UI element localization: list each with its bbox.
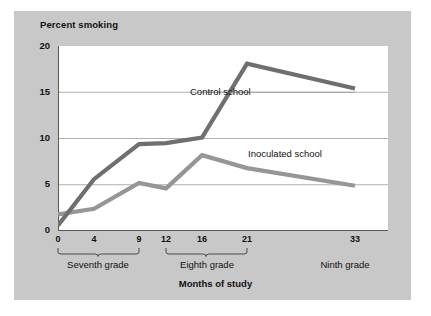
figure-container: Percent smoking 20 15 10 5 0 Control sch… <box>0 0 431 316</box>
x-tick-label-9: 9 <box>127 234 151 244</box>
x-tick-label-21: 21 <box>235 234 259 244</box>
plot-area <box>58 46 388 231</box>
group-label-eighth-grade: Eighth grade <box>157 259 257 270</box>
x-tick-label-4: 4 <box>82 234 106 244</box>
series-label-inoculated-school: Inoculated school <box>248 148 322 159</box>
x-tick-label-0: 0 <box>46 234 70 244</box>
group-label-ninth-grade: Ninth grade <box>305 259 385 270</box>
plot-svg <box>58 46 388 231</box>
y-tick-label-10: 10 <box>28 132 50 143</box>
chart-title: Percent smoking <box>40 19 118 30</box>
y-tick-label-5: 5 <box>28 178 50 189</box>
y-tick-label-15: 15 <box>28 86 50 97</box>
x-tick-label-12: 12 <box>154 234 178 244</box>
group-label-seventh-grade: Seventh grade <box>48 259 148 270</box>
x-tick-label-33: 33 <box>343 234 367 244</box>
series-label-control-school: Control school <box>190 86 251 97</box>
x-tick-label-16: 16 <box>190 234 214 244</box>
x-axis-title: Months of study <box>0 278 431 289</box>
y-tick-label-20: 20 <box>28 40 50 51</box>
